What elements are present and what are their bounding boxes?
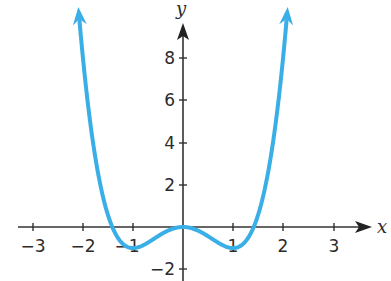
x-tick-label: 2 xyxy=(278,236,289,256)
y-tick-label: −2 xyxy=(150,259,175,279)
x-tick-label: −3 xyxy=(20,236,45,256)
x-tick-label: 3 xyxy=(329,236,340,256)
x-axis-label: x xyxy=(377,216,387,237)
x-tick-label: −2 xyxy=(70,236,95,256)
y-tick-label: 6 xyxy=(164,90,175,110)
y-tick-label: 8 xyxy=(164,48,175,68)
y-axis-label: y xyxy=(175,0,187,19)
function-graph: x y −3 −2 −1 1 2 3 8 6 4 2 −2 xyxy=(0,0,391,281)
y-tick-label: 4 xyxy=(164,133,175,153)
y-tick-label: 2 xyxy=(164,175,175,195)
